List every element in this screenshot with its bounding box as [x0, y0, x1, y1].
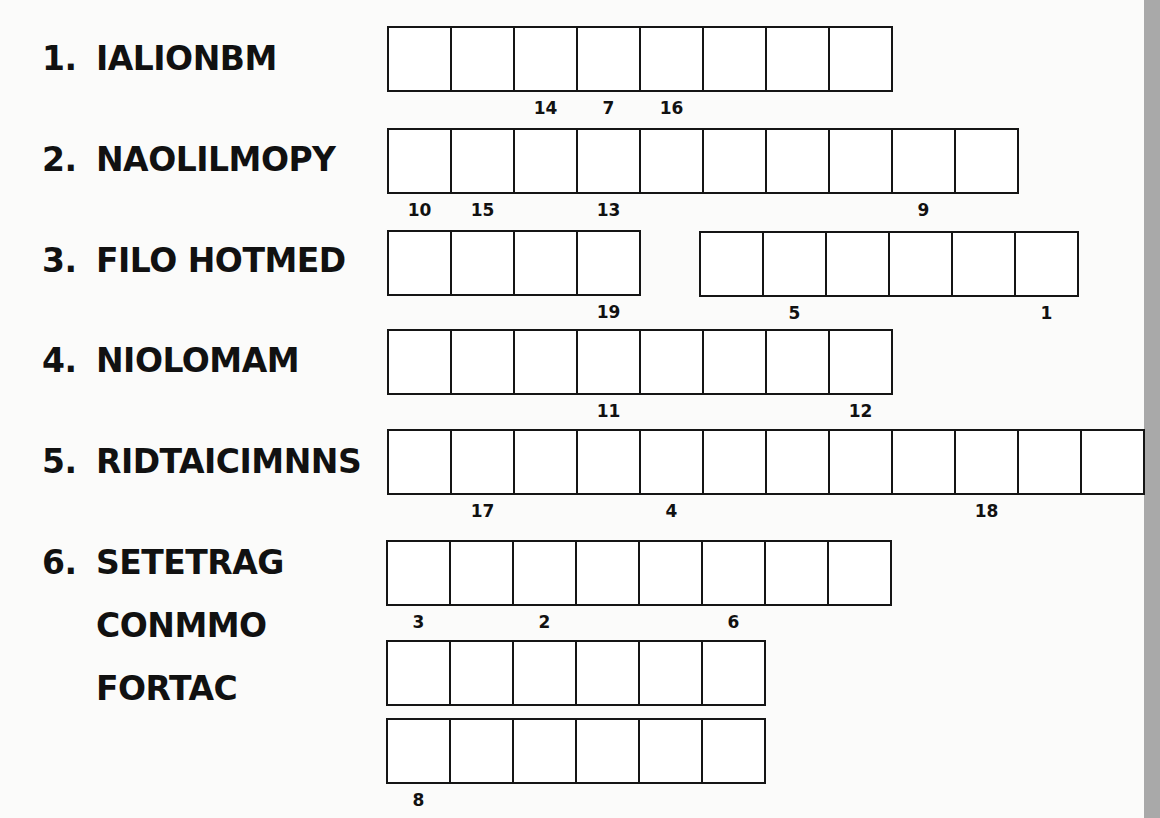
letter-box[interactable]: 18 — [954, 431, 1017, 493]
letter-box[interactable]: 14 — [513, 28, 576, 90]
answer-grid-1: 14716 — [387, 26, 893, 92]
letter-box[interactable] — [765, 130, 828, 192]
clue-number: 1. — [42, 42, 96, 75]
letter-box[interactable] — [891, 431, 954, 493]
letter-box[interactable]: 4 — [639, 431, 702, 493]
letter-box[interactable] — [512, 642, 575, 704]
clue-3: 3.FILO HOTMED — [42, 244, 346, 277]
letter-box[interactable] — [513, 331, 576, 393]
letter-box[interactable] — [449, 720, 512, 782]
clue-6: 6.SETETRAG — [42, 546, 284, 579]
letter-box[interactable]: 9 — [891, 130, 954, 192]
letter-index-number: 4 — [666, 501, 678, 521]
letter-box[interactable]: 15 — [450, 130, 513, 192]
answer-grid-3-word-2: 51 — [699, 231, 1079, 297]
letter-box[interactable]: 17 — [450, 431, 513, 493]
letter-box[interactable] — [702, 130, 765, 192]
letter-index-number: 5 — [789, 303, 801, 323]
letter-box[interactable] — [1080, 431, 1143, 493]
answer-grid-6-word-2 — [386, 640, 766, 706]
letter-box[interactable] — [389, 232, 450, 294]
letter-box[interactable] — [1017, 431, 1080, 493]
letter-index-number: 3 — [413, 612, 425, 632]
letter-box[interactable] — [389, 28, 450, 90]
letter-box[interactable] — [638, 642, 701, 704]
letter-box[interactable] — [701, 642, 764, 704]
letter-index-number: 7 — [603, 98, 615, 118]
letter-box[interactable] — [639, 331, 702, 393]
scrambled-word: NAOLILMOPY — [96, 140, 336, 179]
letter-box[interactable] — [828, 28, 891, 90]
letter-box[interactable] — [575, 720, 638, 782]
answer-grid-6-word-1: 326 — [386, 540, 892, 606]
clue-1: 1.IALIONBM — [42, 42, 277, 75]
letter-box[interactable] — [638, 720, 701, 782]
letter-index-number: 17 — [471, 501, 495, 521]
letter-box[interactable] — [702, 28, 765, 90]
letter-index-number: 10 — [408, 200, 432, 220]
letter-box[interactable] — [449, 642, 512, 704]
letter-box[interactable] — [827, 542, 890, 604]
letter-box[interactable] — [513, 232, 576, 294]
letter-box[interactable] — [575, 542, 638, 604]
letter-box[interactable] — [512, 720, 575, 782]
answer-grid-2: 1015139 — [387, 128, 1019, 194]
letter-box[interactable]: 2 — [512, 542, 575, 604]
letter-box[interactable] — [576, 431, 639, 493]
letter-index-number: 12 — [849, 401, 873, 421]
letter-box[interactable] — [389, 331, 450, 393]
letter-box[interactable] — [701, 720, 764, 782]
answer-grid-3-word-1: 19 — [387, 230, 641, 296]
clue-number: 4. — [42, 344, 96, 377]
clue-number: 3. — [42, 244, 96, 277]
letter-box[interactable] — [450, 232, 513, 294]
page-edge-strip — [1144, 0, 1160, 818]
letter-box[interactable] — [638, 542, 701, 604]
clue-4: 4.NIOLOMAM — [42, 344, 299, 377]
letter-box[interactable] — [825, 233, 888, 295]
clue-number: 5. — [42, 445, 96, 478]
letter-box[interactable] — [954, 130, 1017, 192]
letter-box[interactable]: 12 — [828, 331, 891, 393]
letter-box[interactable]: 1 — [1014, 233, 1077, 295]
letter-box[interactable]: 8 — [388, 720, 449, 782]
letter-box[interactable] — [702, 331, 765, 393]
letter-box[interactable] — [765, 431, 828, 493]
letter-box[interactable]: 7 — [576, 28, 639, 90]
letter-box[interactable]: 16 — [639, 28, 702, 90]
letter-index-number: 16 — [660, 98, 684, 118]
clue-number: 2. — [42, 143, 96, 176]
letter-box[interactable] — [389, 431, 450, 493]
letter-box[interactable]: 11 — [576, 331, 639, 393]
letter-box[interactable] — [513, 130, 576, 192]
letter-box[interactable] — [639, 130, 702, 192]
letter-box[interactable]: 19 — [576, 232, 639, 294]
letter-box[interactable] — [449, 542, 512, 604]
answer-grid-5: 17418 — [387, 429, 1145, 495]
letter-box[interactable] — [450, 331, 513, 393]
scrambled-word: NIOLOMAM — [96, 341, 299, 380]
letter-box[interactable] — [450, 28, 513, 90]
letter-box[interactable]: 5 — [762, 233, 825, 295]
letter-box[interactable] — [701, 233, 762, 295]
letter-box[interactable] — [388, 642, 449, 704]
letter-index-number: 11 — [597, 401, 621, 421]
answer-grid-6-word-3: 8 — [386, 718, 766, 784]
letter-box[interactable]: 6 — [701, 542, 764, 604]
letter-index-number: 9 — [918, 200, 930, 220]
letter-box[interactable] — [765, 331, 828, 393]
letter-box[interactable] — [765, 28, 828, 90]
letter-box[interactable] — [702, 431, 765, 493]
letter-box[interactable] — [828, 431, 891, 493]
letter-box[interactable]: 10 — [389, 130, 450, 192]
letter-box[interactable] — [888, 233, 951, 295]
letter-box[interactable] — [575, 642, 638, 704]
letter-box[interactable]: 3 — [388, 542, 449, 604]
scrambled-word: FORTAC — [96, 669, 237, 708]
letter-box[interactable] — [951, 233, 1014, 295]
letter-box[interactable] — [513, 431, 576, 493]
letter-box[interactable]: 13 — [576, 130, 639, 192]
letter-box[interactable] — [828, 130, 891, 192]
letter-box[interactable] — [764, 542, 827, 604]
letter-index-number: 6 — [728, 612, 740, 632]
